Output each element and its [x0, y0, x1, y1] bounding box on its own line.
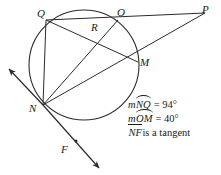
line-Q-O-P	[46, 13, 205, 20]
vertex-label-F: F	[61, 144, 68, 155]
tangent-statement-text: is a tangent	[142, 127, 190, 138]
statement-tangent-NF: NFis a tangent	[128, 126, 220, 140]
vertex-label-O: O	[117, 7, 125, 18]
point-dot-F	[75, 140, 78, 143]
tangent-arrow-lower-right	[43, 105, 99, 168]
arc-OM-value: 40	[164, 113, 175, 124]
measure-prefix-2: m	[128, 113, 136, 124]
segment-name-NF: NF	[128, 126, 142, 140]
equals-sign-1: =	[154, 99, 160, 110]
chord-Q-N	[43, 20, 46, 105]
arc-NQ-value: 94	[162, 99, 173, 110]
vertex-label-P: P	[202, 4, 209, 15]
vertex-label-R: R	[91, 22, 98, 33]
tangent-arrow-upper-left	[9, 69, 43, 105]
degree-symbol-1: °	[173, 99, 177, 110]
given-statements: mNQ = 94° mOM = 40° NFis a tangent	[128, 98, 220, 140]
degree-symbol-2: °	[175, 113, 179, 124]
measure-prefix-1: m	[128, 99, 136, 110]
vertex-label-M: M	[140, 57, 149, 68]
figure-canvas	[0, 0, 221, 175]
vertex-label-Q: Q	[37, 8, 45, 19]
geometry-figure: Q O M N R P F mNQ = 94° mOM = 40° NFis a…	[0, 0, 221, 175]
chord-N-O	[43, 20, 118, 105]
vertex-label-N: N	[29, 103, 36, 114]
